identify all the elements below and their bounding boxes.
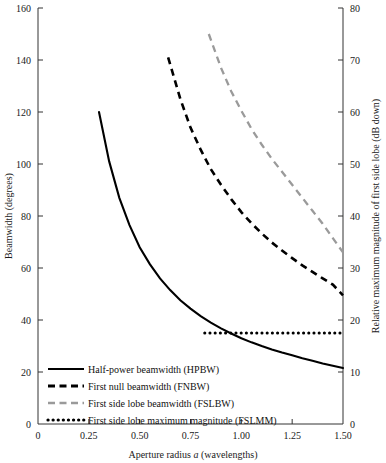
y-tick-label-left: 40 bbox=[21, 315, 31, 326]
legend-label: First side lobe beamwidth (FSLBW) bbox=[88, 398, 234, 410]
y-tick-label-left: 140 bbox=[16, 55, 31, 66]
legend-label: First null beamwidth (FNBW) bbox=[88, 381, 209, 393]
y-tick-label-right: 60 bbox=[350, 107, 360, 118]
x-tick-label: 1.25 bbox=[283, 430, 301, 441]
y-tick-label-right: 20 bbox=[350, 315, 360, 326]
y-tick-label-right: 30 bbox=[350, 263, 360, 274]
y-tick-label-left: 60 bbox=[21, 263, 31, 274]
x-tick-label: 0 bbox=[36, 430, 41, 441]
x-tick-label: 1.50 bbox=[334, 430, 352, 441]
x-tick-label: 0.25 bbox=[80, 430, 98, 441]
x-tick-label: 0.75 bbox=[182, 430, 200, 441]
y-tick-label-left: 120 bbox=[16, 107, 31, 118]
y-tick-label-right: 10 bbox=[350, 367, 360, 378]
chart-svg: 020406080100120140160 01020304050607080 … bbox=[0, 0, 386, 463]
y-tick-label-left: 100 bbox=[16, 159, 31, 170]
y-tick-label-left: 20 bbox=[21, 367, 31, 378]
y-tick-label-left: 80 bbox=[21, 211, 31, 222]
legend-label: First side lobe maximum magnitude (FSLMM… bbox=[88, 415, 277, 427]
y-tick-label-right: 80 bbox=[350, 3, 360, 14]
y-tick-label-right: 0 bbox=[350, 419, 355, 430]
y-tick-label-left: 0 bbox=[26, 419, 31, 430]
y-tick-label-left: 160 bbox=[16, 3, 31, 14]
y-axis-title-left: Beamwidth (degrees) bbox=[3, 173, 15, 259]
y-tick-label-right: 40 bbox=[350, 211, 360, 222]
x-tick-label: 0.50 bbox=[131, 430, 149, 441]
y-tick-label-right: 50 bbox=[350, 159, 360, 170]
x-tick-label: 1.00 bbox=[233, 430, 251, 441]
legend-label: Half-power beamwidth (HPBW) bbox=[88, 364, 219, 376]
y-axis-title-right: Relative maximum magnitude of first side… bbox=[370, 99, 382, 333]
y-tick-label-right: 70 bbox=[350, 55, 360, 66]
x-axis-title: Aperture radius a (wavelengths) bbox=[128, 449, 257, 461]
chart-figure: 020406080100120140160 01020304050607080 … bbox=[0, 0, 386, 463]
